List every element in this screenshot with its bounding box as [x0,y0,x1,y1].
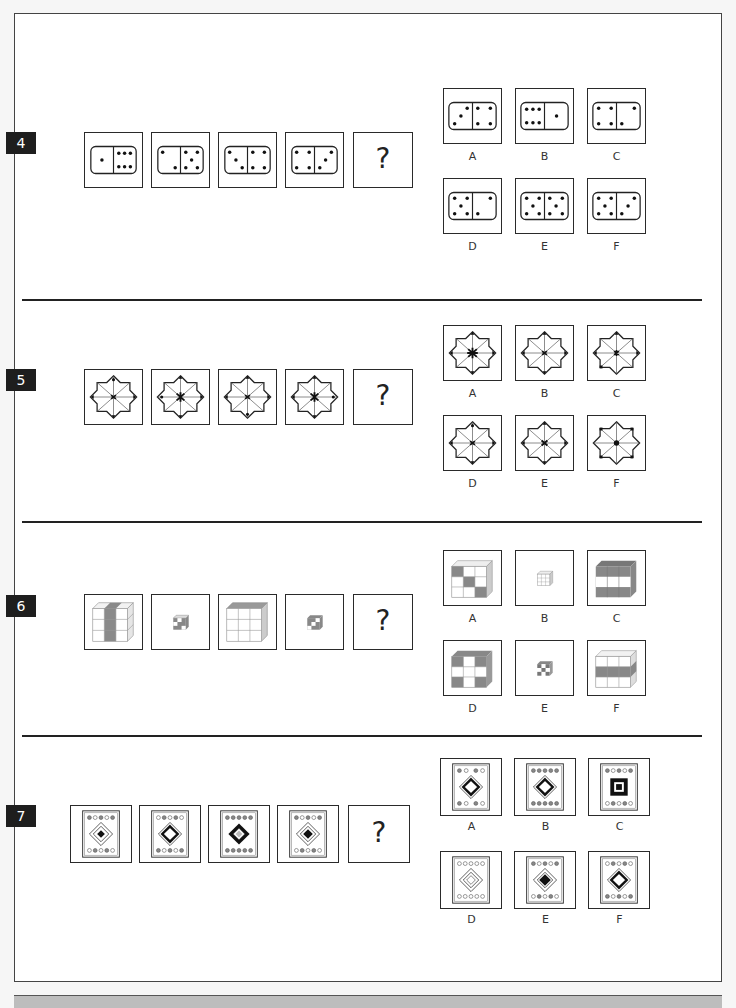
option-f[interactable] [588,851,650,909]
cube-checker-icon [444,641,501,695]
domino-5-3-icon [588,179,645,233]
cube-plain-icon [219,595,276,649]
sequence-item-3 [218,594,277,650]
option-d[interactable] [443,640,502,696]
octagram-star-icon [588,416,645,470]
option-label-d: D [443,477,502,490]
section-divider [22,521,702,523]
option-e[interactable] [515,415,574,471]
sequence-item-4 [285,594,344,650]
option-label-c: C [587,612,646,625]
option-label-f: F [587,702,646,715]
domino-6-1-icon [516,89,573,143]
option-label-e: E [515,477,574,490]
patterned-card-icon [515,759,575,815]
octagram-star-icon [588,326,645,380]
domino-4-3-icon [588,89,645,143]
patterned-card-icon [441,852,501,908]
option-label-e: E [515,702,574,715]
sequence-item-2 [151,132,210,188]
option-d[interactable] [440,851,502,909]
option-label-b: B [515,387,574,400]
option-c[interactable] [587,88,646,144]
patterned-card-icon [515,852,575,908]
option-f[interactable] [587,640,646,696]
answer-placeholder: ? [353,132,413,188]
option-label-a: A [442,820,501,833]
option-b[interactable] [515,88,574,144]
section-divider [22,735,702,737]
sequence-item-2 [151,369,210,425]
small-cube-icon [152,595,209,649]
option-label-a: A [443,612,502,625]
octagram-star-icon [85,370,142,424]
patterned-card-icon [589,759,649,815]
option-b[interactable] [515,325,574,381]
option-b[interactable] [515,550,574,606]
answer-placeholder: ? [353,369,413,425]
sequence-item-2 [151,594,210,650]
option-label-d: D [442,913,501,926]
answer-placeholder: ? [348,805,410,863]
question-number-7: 7 [6,805,36,827]
small-cube-icon [286,595,343,649]
option-label-c: C [590,820,649,833]
patterned-card-icon [140,806,200,862]
option-c[interactable] [587,550,646,606]
domino-3-4-icon [444,89,501,143]
sequence-item-3 [218,369,277,425]
option-d[interactable] [443,178,502,234]
domino-3-4-icon [219,133,276,187]
sequence-item-1 [84,369,143,425]
option-f[interactable] [587,415,646,471]
sequence-item-3 [208,805,270,863]
small-cube-checker-icon [516,641,573,695]
option-label-b: B [515,612,574,625]
octagram-star-icon [444,326,501,380]
patterned-card-icon [71,806,131,862]
domino-5-5-icon [516,179,573,233]
option-a[interactable] [443,550,502,606]
answer-placeholder: ? [353,594,413,650]
option-label-e: E [516,913,575,926]
footer-bar [14,995,722,1008]
sequence-item-4 [285,369,344,425]
question-number-6: 6 [6,595,36,617]
option-d[interactable] [443,415,502,471]
cube-middle-band-icon [588,641,645,695]
patterned-card-icon [278,806,338,862]
option-f[interactable] [587,178,646,234]
cube-vertical-stripe-icon [85,595,142,649]
sequence-item-4 [277,805,339,863]
patterned-card-icon [441,759,501,815]
option-a[interactable] [440,758,502,816]
option-c[interactable] [588,758,650,816]
option-e[interactable] [515,640,574,696]
question-number-4: 4 [6,132,36,154]
option-e[interactable] [515,178,574,234]
octagram-star-icon [516,416,573,470]
option-label-d: D [443,240,502,253]
option-label-c: C [587,387,646,400]
option-b[interactable] [514,758,576,816]
option-a[interactable] [443,325,502,381]
option-label-e: E [515,240,574,253]
sequence-item-4 [285,132,344,188]
sequence-item-1 [84,132,143,188]
octagram-star-icon [152,370,209,424]
sequence-item-1 [70,805,132,863]
cube-horizontal-bands-icon [588,551,645,605]
octagram-star-icon [286,370,343,424]
option-a[interactable] [443,88,502,144]
option-label-a: A [443,387,502,400]
cube-checker-icon [444,551,501,605]
option-label-b: B [516,820,575,833]
option-label-f: F [587,477,646,490]
option-c[interactable] [587,325,646,381]
option-label-b: B [515,150,574,163]
sequence-item-1 [84,594,143,650]
patterned-card-icon [589,852,649,908]
option-e[interactable] [514,851,576,909]
sequence-item-3 [218,132,277,188]
option-label-d: D [443,702,502,715]
